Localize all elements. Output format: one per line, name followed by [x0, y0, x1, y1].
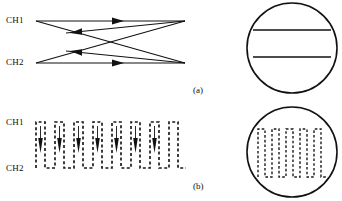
crosstalk-return-upper-path: [66, 21, 185, 33]
drop-arrow: [152, 126, 157, 153]
scope-top-display: [247, 3, 337, 93]
crosstalk-return-lower-path: [66, 51, 185, 63]
drop-arrow: [95, 126, 100, 153]
drop-arrow: [133, 126, 138, 153]
drop-arrow: [38, 126, 43, 153]
figure-container: CH1 CH2 CH1 CH2 (a) (b): [0, 0, 342, 201]
figure-vector-layer: [0, 0, 342, 201]
panel-a-arrow-network: [36, 18, 185, 67]
drop-arrow: [76, 126, 81, 153]
drop-arrow: [114, 126, 119, 153]
scope-bottom-display: [247, 107, 337, 197]
scope-top-bezel: [247, 3, 337, 93]
ch2-direct-arrowhead-icon: [112, 60, 124, 67]
scope-bottom-square-wave-trace: [258, 129, 328, 177]
ch1-direct-arrowhead-icon: [112, 18, 124, 25]
scope-bottom-bezel: [247, 107, 337, 197]
drop-arrow: [57, 126, 62, 153]
panel-b-drop-arrows: [38, 126, 157, 153]
